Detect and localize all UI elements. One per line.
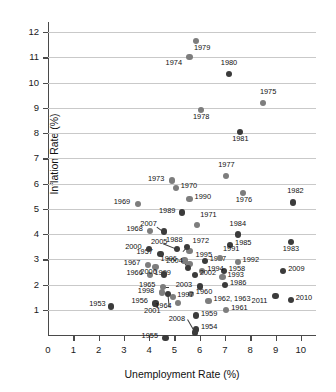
data-point-1970 bbox=[173, 185, 179, 191]
point-label-1998: 1998 bbox=[138, 287, 154, 295]
point-label-1983: 1983 bbox=[283, 245, 299, 253]
point-label-1979: 1979 bbox=[194, 44, 210, 52]
y-tick-label-10: 10 bbox=[17, 78, 39, 88]
x-tick-1 bbox=[73, 336, 74, 341]
gridline-y-1 bbox=[48, 310, 316, 311]
x-tick-5 bbox=[174, 336, 175, 341]
point-label-2005: 2005 bbox=[151, 238, 167, 246]
data-point-2010 bbox=[288, 297, 294, 303]
data-point-1975 bbox=[260, 100, 266, 106]
point-label-2003: 2003 bbox=[176, 281, 192, 289]
data-point-1991 bbox=[217, 255, 223, 261]
data-point-1955 bbox=[162, 335, 168, 341]
data-point-2008 bbox=[192, 329, 198, 335]
point-label-1982: 1982 bbox=[287, 187, 303, 195]
data-point-1982 bbox=[290, 199, 296, 205]
data-point-1989 bbox=[179, 209, 185, 215]
point-label-1984: 1984 bbox=[230, 220, 246, 228]
point-label-1956: 1956 bbox=[131, 297, 147, 305]
point-label-1970: 1970 bbox=[181, 182, 197, 190]
data-point-2006 bbox=[161, 271, 167, 277]
point-label-1973: 1973 bbox=[148, 175, 164, 183]
point-label-1967: 1967 bbox=[124, 259, 140, 267]
point-label-2002: 2002 bbox=[200, 269, 216, 277]
x-axis-title: Unemployment Rate (%) bbox=[48, 368, 316, 380]
point-label-1990: 1990 bbox=[195, 193, 211, 201]
x-tick-2 bbox=[99, 336, 100, 341]
point-label-2008: 2008 bbox=[169, 315, 185, 323]
data-point-1959 bbox=[193, 312, 199, 318]
x-tick-label-1: 1 bbox=[63, 345, 83, 355]
y-tick-label-8: 8 bbox=[17, 128, 39, 138]
point-label-1977: 1977 bbox=[218, 161, 234, 169]
y-tick-label-11: 11 bbox=[17, 52, 39, 62]
y-tick-label-6: 6 bbox=[17, 179, 39, 189]
point-label-2000: 2000 bbox=[125, 243, 141, 251]
x-tick-label-0: 0 bbox=[38, 345, 58, 355]
point-label-2007: 2007 bbox=[140, 220, 156, 228]
point-label-1976: 1976 bbox=[236, 196, 252, 204]
x-tick-7 bbox=[225, 336, 226, 341]
point-label-2006: 2006 bbox=[140, 268, 156, 276]
data-point-1984 bbox=[235, 231, 241, 237]
point-label-1954: 1954 bbox=[201, 323, 217, 331]
x-tick-label-5: 5 bbox=[164, 345, 184, 355]
point-label-2011: 2011 bbox=[252, 297, 268, 305]
data-point-1973 bbox=[169, 177, 175, 183]
data-point-2003 bbox=[197, 283, 203, 289]
x-tick-label-8: 8 bbox=[240, 345, 260, 355]
data-point-1992 bbox=[235, 259, 241, 265]
point-label-1962-1963: 1962, 1963 bbox=[214, 295, 251, 303]
point-label-1980: 1980 bbox=[221, 59, 237, 67]
x-tick-3 bbox=[124, 336, 125, 341]
point-label-1997: 1997 bbox=[177, 291, 193, 299]
data-point-1997 bbox=[170, 294, 176, 300]
x-tick-label-2: 2 bbox=[89, 345, 109, 355]
x-tick-label-3: 3 bbox=[114, 345, 134, 355]
gridline-y-9 bbox=[48, 108, 316, 109]
point-label-1981: 1981 bbox=[232, 135, 248, 143]
point-label-2004: 2004 bbox=[166, 257, 182, 265]
x-tick-6 bbox=[200, 336, 201, 341]
y-tick-label-12: 12 bbox=[17, 27, 39, 37]
point-label-1978: 1978 bbox=[193, 113, 209, 121]
point-label-1993: 1993 bbox=[227, 271, 243, 279]
point-label-1955: 1955 bbox=[142, 332, 158, 340]
point-label-1959: 1959 bbox=[201, 310, 217, 318]
data-point-1998 bbox=[159, 289, 165, 295]
x-tick-label-10: 10 bbox=[291, 345, 311, 355]
data-point-2002 bbox=[192, 272, 198, 278]
point-label-1971: 1971 bbox=[200, 211, 216, 219]
point-label-1995: 1995 bbox=[196, 251, 212, 259]
point-label-1989: 1989 bbox=[159, 207, 175, 215]
x-tick-10 bbox=[301, 336, 302, 341]
point-label-1961: 1961 bbox=[231, 304, 247, 312]
gridline-y-7 bbox=[48, 158, 316, 159]
data-point-2000 bbox=[146, 246, 152, 252]
y-tick-label-9: 9 bbox=[17, 103, 39, 113]
data-point-1962-1963 bbox=[205, 298, 211, 304]
point-label-1953: 1953 bbox=[89, 300, 105, 308]
x-tick-label-4: 4 bbox=[139, 345, 159, 355]
x-tick-label-7: 7 bbox=[215, 345, 235, 355]
point-label-2010: 2010 bbox=[296, 294, 312, 302]
point-label-1972: 1972 bbox=[193, 237, 209, 245]
y-tick-label-1: 1 bbox=[17, 305, 39, 315]
x-tick-label-6: 6 bbox=[190, 345, 210, 355]
y-tick-label-5: 5 bbox=[17, 204, 39, 214]
point-label-1969: 1969 bbox=[114, 198, 130, 206]
point-label-1988: 1988 bbox=[166, 236, 182, 244]
point-label-1975: 1975 bbox=[260, 88, 276, 96]
data-point-1980 bbox=[226, 71, 232, 77]
y-tick-label-7: 7 bbox=[17, 153, 39, 163]
point-label-1992: 1992 bbox=[243, 256, 259, 264]
gridline-y-12 bbox=[48, 32, 316, 33]
gridline-y-11 bbox=[48, 57, 316, 58]
data-point-1990 bbox=[186, 196, 192, 202]
data-point-2009 bbox=[280, 268, 286, 274]
data-point-2007 bbox=[161, 228, 167, 234]
scatter-plot-figure: Inflation Rate (%) 123456789101112 01234… bbox=[0, 0, 336, 392]
point-label-2009: 2009 bbox=[288, 265, 304, 273]
data-point-2011 bbox=[272, 293, 278, 299]
gridline-y-10 bbox=[48, 83, 316, 84]
